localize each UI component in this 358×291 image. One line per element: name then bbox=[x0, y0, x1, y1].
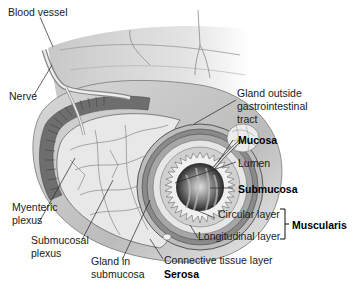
label-mucosa: Mucosa bbox=[238, 134, 277, 146]
label-gland-outside-3: tract bbox=[237, 113, 257, 125]
label-muscularis: Muscularis bbox=[292, 219, 347, 231]
label-lumen: Lumen bbox=[238, 157, 270, 169]
label-serosa: Serosa bbox=[164, 268, 199, 280]
label-blood-vessel: Blood vessel bbox=[8, 6, 68, 18]
label-gland-outside-1: Gland outside bbox=[237, 87, 302, 99]
label-longitudinal-layer: Longitudinal layer bbox=[198, 230, 280, 242]
label-gland-in-1: Gland in bbox=[91, 255, 130, 267]
gland-in-submucosa bbox=[163, 234, 171, 240]
label-gland-outside-2: gastrointestinal bbox=[237, 100, 308, 112]
label-nerve: Nerve bbox=[9, 90, 37, 102]
label-connective-tissue-layer: Connective tissue layer bbox=[164, 254, 273, 266]
label-myenteric-1: Myenteric bbox=[12, 201, 58, 213]
label-submucosa: Submucosa bbox=[238, 183, 298, 195]
label-gland-in-2: submucosa bbox=[91, 268, 145, 280]
label-circular-layer: Circular layer bbox=[218, 208, 280, 220]
label-submucosal-2: plexus bbox=[31, 247, 61, 259]
muscularis-bracket bbox=[280, 209, 289, 239]
gi-tract-diagram: Blood vessel Nerve Gland outside gastroi… bbox=[0, 0, 358, 291]
label-submucosal-1: Submucosal bbox=[31, 234, 89, 246]
label-myenteric-2: plexus bbox=[12, 214, 42, 226]
